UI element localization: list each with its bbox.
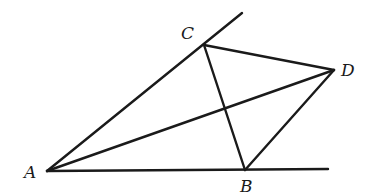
point-label-c: C [181,23,194,43]
point-label-d: D [340,60,355,80]
geometry-diagram: A B C D [0,0,381,196]
point-label-a: A [22,162,36,182]
point-label-b: B [239,176,253,196]
ray-AC [47,13,242,171]
ray-AB [47,169,328,171]
segment-AD [47,70,334,171]
segment-CD [204,45,334,70]
